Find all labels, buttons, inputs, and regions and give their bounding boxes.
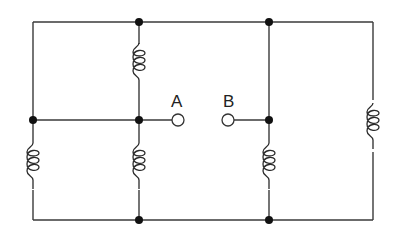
node-top-right: [265, 18, 273, 26]
terminal-b-label: B: [223, 92, 234, 111]
node-right-middle: [265, 116, 273, 124]
terminal-a: A: [171, 92, 184, 126]
inductor-bottom-left: [27, 143, 39, 189]
node-center: [135, 116, 143, 124]
inductor-far-right: [367, 103, 379, 149]
terminal-b: B: [222, 92, 234, 126]
wires: [33, 22, 373, 220]
terminal-a-circle: [172, 114, 184, 126]
circuit-svg: A B: [0, 0, 397, 235]
inductor-bottom-middle: [133, 143, 145, 189]
circuit-diagram: A B: [0, 0, 397, 235]
node-top-middle: [135, 18, 143, 26]
terminal-a-label: A: [171, 92, 183, 111]
junction-nodes: [29, 18, 273, 224]
inductor-top-middle: [133, 43, 145, 89]
inductor-bottom-right-inner: [263, 143, 275, 189]
node-bottom-right: [265, 216, 273, 224]
node-left-middle: [29, 116, 37, 124]
terminal-b-circle: [222, 114, 234, 126]
node-bottom-middle: [135, 216, 143, 224]
